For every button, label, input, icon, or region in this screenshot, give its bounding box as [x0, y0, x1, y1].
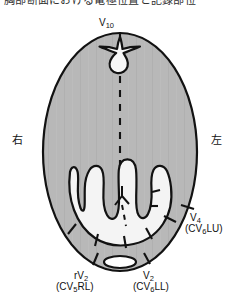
orientation-label-left: 左	[211, 131, 222, 147]
orientation-label-right: 右	[12, 131, 23, 147]
label-v10-primary: V	[99, 17, 106, 28]
label-v2-alt-suffix: LL)	[154, 281, 168, 292]
label-rv2-primary: rV	[74, 270, 84, 281]
label-v10: V10	[99, 17, 114, 28]
truncated-header-line: 胸部断面における電極位置と記録部位	[4, 0, 196, 7]
label-v4-alt-suffix: LU)	[206, 223, 222, 234]
label-v2: V2	[143, 270, 154, 281]
figure-root: 胸部断面における電極位置と記録部位	[0, 0, 241, 305]
label-v4-alt-subscript: 6	[202, 227, 206, 236]
label-v2-primary: V	[143, 270, 150, 281]
label-v4-alt: (CV6LU)	[185, 223, 223, 234]
label-rv2: rV2	[74, 270, 88, 281]
label-v4: V4	[190, 212, 201, 223]
label-v4-primary: V	[190, 212, 197, 223]
label-rv2-alt-suffix: RL)	[77, 281, 93, 292]
label-rv2-alt-primary: (CV	[56, 281, 73, 292]
label-v2-alt-primary: (CV	[133, 281, 150, 292]
sternum-oval	[104, 256, 136, 268]
label-v2-alt: (CV6LL)	[133, 281, 169, 292]
label-rv2-alt: (CV5RL)	[56, 281, 94, 292]
truncated-header-text: 胸部断面における電極位置と記録部位	[0, 0, 241, 9]
label-rv2-alt-subscript: 5	[73, 285, 77, 294]
label-v10-subscript: 10	[106, 21, 114, 30]
label-v4-alt-primary: (CV	[185, 223, 202, 234]
label-v2-alt-subscript: 6	[150, 285, 154, 294]
cross-section-illustration	[0, 0, 241, 305]
